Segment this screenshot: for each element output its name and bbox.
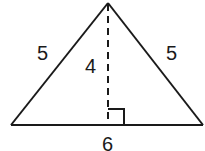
triangle-diagram: 5 4 5 6 [0, 0, 205, 151]
right-side-label: 5 [166, 42, 177, 64]
left-side-label: 5 [37, 42, 48, 64]
base-label: 6 [102, 133, 113, 151]
background [0, 0, 205, 151]
height-label: 4 [85, 55, 96, 77]
